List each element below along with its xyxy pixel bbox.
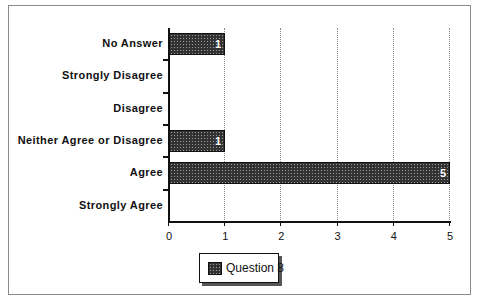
legend: Question 8 — [199, 253, 279, 283]
x-tick-label: 5 — [440, 230, 460, 242]
legend-label: Question 8 — [226, 261, 284, 275]
category-label: Strongly Disagree — [62, 69, 163, 81]
bar: 1 — [169, 33, 225, 55]
legend-swatch-icon — [208, 262, 222, 275]
bar: 1 — [169, 130, 225, 152]
x-tick-label: 2 — [271, 230, 291, 242]
gridline — [393, 28, 394, 222]
x-tick-label: 3 — [328, 230, 348, 242]
category-label: Strongly Agree — [79, 199, 163, 211]
gridline — [337, 28, 338, 222]
gridline — [449, 28, 450, 222]
x-axis — [168, 221, 451, 223]
x-tick-label: 4 — [384, 230, 404, 242]
category-label: No Answer — [102, 37, 163, 49]
gridline — [280, 28, 281, 222]
bar: 5 — [169, 162, 450, 184]
gridline — [224, 28, 225, 222]
category-label: Agree — [130, 166, 163, 178]
bar-value-label: 1 — [215, 38, 221, 50]
category-label: Disagree — [113, 102, 163, 114]
bar-value-label: 5 — [440, 167, 446, 179]
x-tick-label: 0 — [159, 230, 179, 242]
x-tick-label: 1 — [215, 230, 235, 242]
y-axis — [168, 28, 170, 223]
chart-frame — [8, 5, 471, 295]
category-label: Neither Agree or Disagree — [18, 134, 163, 146]
bar-value-label: 1 — [215, 135, 221, 147]
